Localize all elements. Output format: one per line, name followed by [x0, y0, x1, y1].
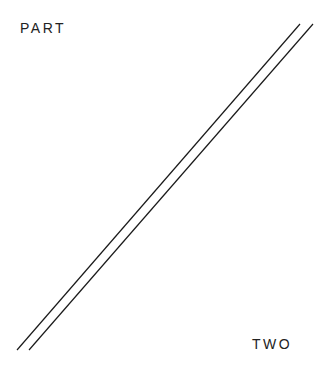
part-title-page: PART TWO [0, 0, 332, 375]
diagonal-double-line [0, 0, 332, 375]
part-number-label: TWO [252, 336, 292, 352]
part-label: PART [20, 20, 66, 36]
diagonal-line-right [29, 24, 313, 350]
diagonal-line-left [17, 24, 300, 350]
